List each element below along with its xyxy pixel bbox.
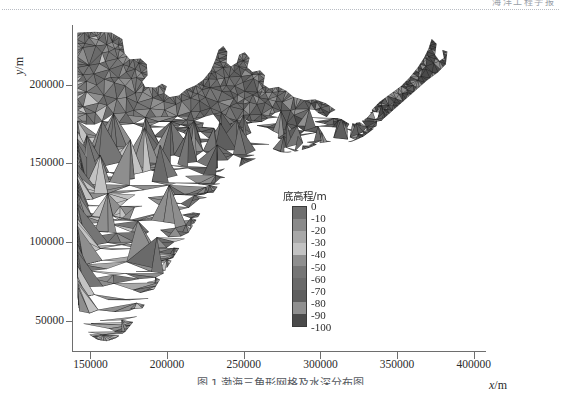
x-tick-label: 300000	[303, 358, 338, 370]
colorbar-band	[293, 314, 306, 326]
y-axis-title-unit: /m	[12, 57, 26, 70]
colorbar-tick-label: -40	[311, 249, 326, 260]
x-tick-label: 350000	[380, 358, 415, 370]
colorbar-tick-label: -90	[311, 310, 326, 321]
mesh-plot-canvas	[73, 25, 487, 352]
y-tick-label: 150000	[30, 156, 65, 168]
colorbar-band	[293, 255, 306, 267]
colorbar-legend: 底高程/m 0-10-20-30-40-50-60-70-80-90-100	[283, 188, 353, 206]
plot-frame	[72, 25, 486, 352]
figure-caption-text: 图 1 渤海三角形网格及水深分布图	[197, 374, 365, 385]
page-running-head: 海洋工程学报	[0, 0, 561, 11]
colorbar-tick-label: -70	[311, 286, 326, 297]
colorbar-band	[293, 219, 306, 231]
colorbar-tick-label: -20	[311, 225, 326, 236]
colorbar-tick-label: -80	[311, 298, 326, 309]
colorbar-tick-label: -30	[311, 237, 326, 248]
x-tick-label: 200000	[150, 358, 185, 370]
colorbar-band	[293, 266, 306, 278]
colorbar-tick-label: -10	[311, 213, 326, 224]
y-tick-label: 50000	[35, 314, 64, 326]
y-axis-title-symbol: y	[12, 70, 26, 75]
colorbar-band	[293, 243, 306, 255]
colorbar-band	[293, 302, 306, 314]
y-tick-label: 100000	[30, 235, 65, 247]
colorbar-tick-label: -50	[311, 262, 326, 273]
header-divider	[2, 9, 559, 10]
colorbar-tick-label: -100	[311, 322, 331, 333]
colorbar-title: 底高程/m	[283, 188, 353, 203]
colorbar-band	[293, 231, 306, 243]
x-tick-label: 150000	[73, 358, 108, 370]
y-tick-label: 200000	[30, 78, 65, 90]
x-tick-label: 250000	[226, 358, 261, 370]
colorbar-band	[293, 278, 306, 290]
colorbar-tick-label: -60	[311, 274, 326, 285]
colorbar-band	[293, 207, 306, 219]
x-tick-label: 400000	[456, 358, 491, 370]
figure-container: y/m x/m 15000020000025000030000035000040…	[0, 11, 561, 396]
colorbar-band	[293, 290, 306, 302]
colorbar-swatches	[292, 206, 307, 327]
y-axis-title: y/m	[12, 57, 27, 75]
running-head-text: 海洋工程学报	[492, 0, 555, 8]
colorbar-tick-label: 0	[311, 201, 317, 212]
figure-caption: 图 1 渤海三角形网格及水深分布图	[0, 374, 561, 385]
